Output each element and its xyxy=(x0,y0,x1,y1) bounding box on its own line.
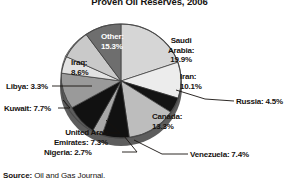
slice-label-saudi-arabia-line1: Saudi xyxy=(168,36,194,46)
slice-label-uae-line1: United Arab xyxy=(12,128,108,138)
source-text: Oil and Gas Journal. xyxy=(32,171,105,180)
slice-label-iraq: Iraq: 8.6% xyxy=(71,58,88,77)
page-title: Proven Oil Reserves, 2006 xyxy=(0,0,299,7)
slice-label-other: Other: 15.3% xyxy=(101,32,124,51)
slice-label-canada: Canada: 13.3% xyxy=(152,112,182,131)
slice-label-iran-value: 10.1% xyxy=(180,82,202,92)
slice-label-nigeria: Nigeria: 2.7% xyxy=(44,148,92,158)
chart-figure: Proven Oil Reserves, 2006 xyxy=(0,0,299,183)
source-note: Source: Oil and Gas Journal. xyxy=(3,171,105,180)
slice-label-iraq-value: 8.6% xyxy=(71,68,88,78)
slice-label-iraq-name: Iraq: xyxy=(71,58,88,68)
source-label: Source: xyxy=(3,171,32,180)
slice-label-saudi-arabia-line2: Arabia: xyxy=(168,46,194,56)
slice-label-kuwait: Kuwait: 7.7% xyxy=(4,104,51,114)
slice-label-libya: Libya: 3.3% xyxy=(6,82,48,92)
slice-label-canada-value: 13.3% xyxy=(152,122,182,132)
slice-label-venezuela: Venezuela: 7.4% xyxy=(190,150,249,160)
slice-label-united-arab-emirates: United Arab Emirates: 7.3% xyxy=(12,128,108,147)
slice-label-canada-name: Canada: xyxy=(152,112,182,122)
slice-label-iran-name: Iran: xyxy=(180,72,202,82)
slice-label-other-name: Other: xyxy=(101,32,124,42)
slice-label-iran: Iran: 10.1% xyxy=(180,72,202,91)
slice-label-uae-line2: Emirates: 7.3% xyxy=(12,138,108,148)
slice-label-saudi-arabia: Saudi Arabia: 19.9% xyxy=(168,36,194,65)
slice-label-other-value: 15.3% xyxy=(101,42,124,52)
leader-russia xyxy=(205,99,234,101)
slice-label-russia: Russia: 4.5% xyxy=(236,97,283,107)
slice-label-saudi-arabia-value: 19.9% xyxy=(168,55,194,65)
